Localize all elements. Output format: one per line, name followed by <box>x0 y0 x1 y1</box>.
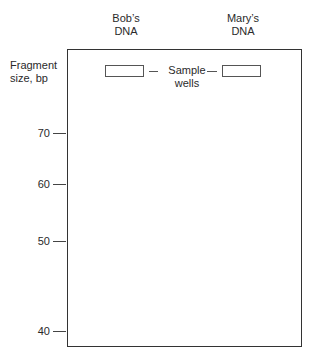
tick-label-60: 60 <box>30 178 50 190</box>
y-axis-title: Fragment size, bp <box>10 59 57 85</box>
tick-label-40: 40 <box>30 325 50 337</box>
y-axis-title-line1: Fragment <box>10 59 57 72</box>
tick-60 <box>53 184 66 185</box>
lane-label-bob-line1: Bob’s <box>96 12 156 25</box>
sample-wells-label-line2: wells <box>159 77 215 90</box>
tick-label-50: 50 <box>30 235 50 247</box>
wells-connector-left <box>149 71 158 72</box>
lane-label-bob-line2: DNA <box>96 25 156 38</box>
tick-40 <box>53 331 66 332</box>
sample-wells-label: Sample wells <box>159 64 215 90</box>
y-axis-title-line2: size, bp <box>10 72 57 85</box>
tick-70 <box>53 133 66 134</box>
lane-label-mary-line2: DNA <box>213 25 273 38</box>
lane-label-bob: Bob’s DNA <box>96 12 156 38</box>
tick-label-70: 70 <box>30 127 50 139</box>
sample-well-bob <box>105 65 144 77</box>
sample-wells-label-line1: Sample <box>159 64 215 77</box>
sample-well-mary <box>222 65 261 77</box>
tick-50 <box>53 241 66 242</box>
lane-label-mary: Mary’s DNA <box>213 12 273 38</box>
lane-label-mary-line1: Mary’s <box>213 12 273 25</box>
gel-box <box>67 49 302 347</box>
